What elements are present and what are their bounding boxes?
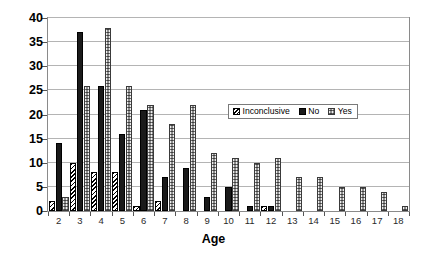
bar-yes-age-17 xyxy=(381,192,387,211)
legend-label-yes: Yes xyxy=(338,107,352,116)
bar-group-age-8 xyxy=(175,18,196,211)
x-tick-label-4: 4 xyxy=(90,216,111,226)
bar-group-age-18 xyxy=(388,18,409,211)
x-tick-label-2: 2 xyxy=(48,216,69,226)
bar-group-age-3 xyxy=(69,18,90,211)
bar-no-age-9 xyxy=(204,197,210,211)
x-axis-title: Age xyxy=(0,232,427,246)
y-tick-label: 5 xyxy=(15,181,43,194)
bar-inconclusive-age-3 xyxy=(70,163,76,211)
x-tick-label-16: 16 xyxy=(345,216,366,226)
bar-inconclusive-age-5 xyxy=(112,172,118,211)
x-tick-label-15: 15 xyxy=(324,216,345,226)
x-tick-label-12: 12 xyxy=(260,216,281,226)
bar-no-age-5 xyxy=(119,134,125,211)
bar-yes-age-10 xyxy=(232,158,238,211)
y-tick-label: 40 xyxy=(15,12,43,25)
x-tick-label-17: 17 xyxy=(367,216,388,226)
bar-group-age-9 xyxy=(197,18,218,211)
bar-group-age-5 xyxy=(112,18,133,211)
bar-group-age-2 xyxy=(48,18,69,211)
x-tick-label-6: 6 xyxy=(133,216,154,226)
bar-group-age-17 xyxy=(367,18,388,211)
legend-item-no: No xyxy=(299,107,320,116)
bar-inconclusive-age-12 xyxy=(261,206,267,211)
bar-no-age-7 xyxy=(162,177,168,211)
bar-yes-age-13 xyxy=(296,177,302,211)
legend-label-inconclusive: Inconclusive xyxy=(243,107,290,116)
x-tick-label-14: 14 xyxy=(303,216,324,226)
x-tick-label-13: 13 xyxy=(282,216,303,226)
y-tick-label: 0 xyxy=(15,205,43,218)
x-axis-labels: 23456789101112131415161718 xyxy=(48,216,409,226)
legend-swatch-yes xyxy=(328,108,335,115)
bar-yes-age-12 xyxy=(275,158,281,211)
bar-chart: 0510152025303540 23456789101112131415161… xyxy=(0,0,427,259)
bar-inconclusive-age-4 xyxy=(91,172,97,211)
y-tick-label: 10 xyxy=(15,157,43,170)
bar-no-age-8 xyxy=(183,168,189,211)
bar-no-age-4 xyxy=(98,86,104,211)
bar-no-age-10 xyxy=(225,187,231,211)
chart-legend: Inconclusive No Yes xyxy=(228,104,358,119)
legend-swatch-no xyxy=(299,108,306,115)
bar-yes-age-2 xyxy=(62,197,68,211)
bar-yes-age-14 xyxy=(317,177,323,211)
x-tick-label-5: 5 xyxy=(112,216,133,226)
y-tick-label: 15 xyxy=(15,133,43,146)
legend-item-inconclusive: Inconclusive xyxy=(233,107,290,116)
bar-inconclusive-age-2 xyxy=(49,201,55,211)
x-tick-label-10: 10 xyxy=(218,216,239,226)
x-tick-label-18: 18 xyxy=(388,216,409,226)
bar-inconclusive-age-6 xyxy=(133,206,139,211)
y-tick-label: 30 xyxy=(15,60,43,73)
x-tick-label-7: 7 xyxy=(154,216,175,226)
x-tick xyxy=(409,212,410,216)
bar-yes-age-16 xyxy=(360,187,366,211)
bar-yes-age-5 xyxy=(126,86,132,211)
bar-yes-age-3 xyxy=(84,86,90,211)
y-tick-label: 35 xyxy=(15,36,43,49)
legend-label-no: No xyxy=(308,107,319,116)
bar-yes-age-11 xyxy=(254,163,260,211)
x-tick-label-9: 9 xyxy=(197,216,218,226)
bar-no-age-11 xyxy=(247,206,253,211)
bar-no-age-3 xyxy=(77,32,83,211)
bar-no-age-12 xyxy=(268,206,274,211)
x-tick-label-3: 3 xyxy=(69,216,90,226)
bar-group-age-4 xyxy=(90,18,111,211)
legend-swatch-inconclusive xyxy=(233,108,240,115)
bar-group-age-6 xyxy=(133,18,154,211)
bar-yes-age-6 xyxy=(147,105,153,211)
bar-no-age-2 xyxy=(56,143,62,211)
y-tick-label: 25 xyxy=(15,84,43,97)
x-tick-label-8: 8 xyxy=(175,216,196,226)
bar-yes-age-9 xyxy=(211,153,217,211)
bar-yes-age-18 xyxy=(402,206,408,211)
bar-inconclusive-age-7 xyxy=(155,201,161,211)
bar-yes-age-4 xyxy=(105,28,111,211)
x-tick-label-11: 11 xyxy=(239,216,260,226)
bar-group-age-7 xyxy=(154,18,175,211)
bar-yes-age-7 xyxy=(169,124,175,211)
legend-item-yes: Yes xyxy=(328,107,352,116)
bar-yes-age-8 xyxy=(190,105,196,211)
bar-yes-age-15 xyxy=(339,187,345,211)
bar-no-age-6 xyxy=(140,110,146,211)
y-tick-label: 20 xyxy=(15,109,43,122)
